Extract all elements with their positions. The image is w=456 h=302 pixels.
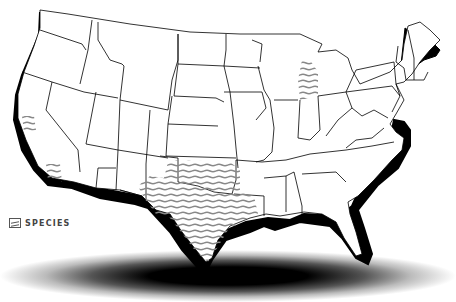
species-range-california-south	[46, 164, 62, 182]
species-range-california-north	[22, 116, 36, 132]
legend: SPECIES	[9, 218, 71, 228]
legend-label-species: SPECIES	[25, 219, 71, 228]
hatch-swatch-icon	[9, 218, 21, 228]
